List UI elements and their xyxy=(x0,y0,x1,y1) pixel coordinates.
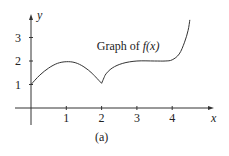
x-tick-label: 1 xyxy=(63,111,69,125)
x-axis-label: x xyxy=(210,111,217,125)
x-tick-label: 3 xyxy=(134,111,140,125)
graph-label: Graph of f(x) xyxy=(97,39,160,53)
figure-caption: (a) xyxy=(95,130,108,144)
x-tick-label: 4 xyxy=(169,111,175,125)
y-axis-arrow xyxy=(29,14,33,20)
y-tick-label: 2 xyxy=(15,54,21,68)
function-graph: 1234123 Graph of f(x) x y (a) xyxy=(0,0,229,156)
x-tick-label: 2 xyxy=(99,111,105,125)
x-axis-arrow xyxy=(208,106,214,110)
y-tick-label: 1 xyxy=(15,78,21,92)
y-axis-label: y xyxy=(36,8,43,22)
y-tick-label: 3 xyxy=(15,31,21,45)
